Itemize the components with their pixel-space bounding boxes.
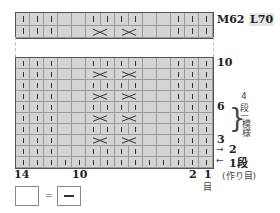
chart-bottom-section: [15, 57, 214, 169]
empty-stitch: [72, 102, 86, 113]
knit-stitch-icon: [44, 13, 58, 26]
knit-stitch-icon: [16, 124, 30, 135]
empty-stitch: [58, 26, 72, 39]
knit-stitch-icon: [30, 113, 44, 124]
empty-stitch: [143, 102, 157, 113]
knit-stitch-icon: [101, 58, 115, 69]
knit-stitch-icon: [129, 146, 143, 157]
legend-equals: =: [45, 190, 53, 200]
knit-stitch-icon: [171, 157, 185, 168]
knit-stitch-icon: [185, 26, 199, 39]
empty-stitch: [72, 113, 86, 124]
col-label-14: 14: [14, 168, 29, 181]
row-label-10: 10: [217, 56, 232, 69]
knit-stitch-icon: [86, 124, 100, 135]
col-label-10: 10: [72, 168, 87, 181]
cable-cross-icon: [115, 91, 143, 102]
knit-stitch-icon: [199, 146, 213, 157]
empty-stitch: [143, 69, 157, 80]
knit-stitch-icon: [86, 146, 100, 157]
cable-cross-icon: [86, 26, 114, 39]
knit-stitch-icon: [30, 157, 44, 168]
cast-on-label: (作り目): [222, 169, 256, 182]
arrow-2: →: [216, 144, 224, 154]
knit-stitch-icon: [16, 102, 30, 113]
knit-stitch-icon: [101, 80, 115, 91]
knit-stitch-icon: [30, 58, 44, 69]
knit-stitch-icon: [115, 146, 129, 157]
knit-stitch-icon: [101, 13, 115, 26]
empty-stitch: [72, 124, 86, 135]
knit-stitch-icon: [30, 26, 44, 39]
knit-stitch-icon: [101, 146, 115, 157]
knit-stitch-icon: [185, 80, 199, 91]
knit-stitch-icon: [185, 69, 199, 80]
cable-cross-icon: [115, 26, 143, 39]
knit-stitch-icon: [115, 80, 129, 91]
chart-top-section: [15, 12, 214, 39]
knit-stitch-icon: [115, 157, 129, 168]
purl-dash-icon: [64, 195, 74, 197]
empty-stitch: [143, 13, 157, 26]
knit-stitch-icon: [16, 91, 30, 102]
empty-stitch: [157, 146, 171, 157]
knit-stitch-icon: [171, 69, 185, 80]
empty-stitch: [143, 113, 157, 124]
empty-stitch: [143, 146, 157, 157]
knit-stitch-icon: [30, 91, 44, 102]
knit-stitch-icon: [44, 69, 58, 80]
knit-stitch-icon: [30, 102, 44, 113]
empty-stitch: [157, 13, 171, 26]
cable-cross-icon: [115, 69, 143, 80]
empty-stitch: [157, 91, 171, 102]
knit-stitch-icon: [115, 58, 129, 69]
knit-stitch-icon: [199, 135, 213, 146]
cable-cross-icon: [86, 135, 114, 146]
knit-stitch-icon: [129, 157, 143, 168]
knit-stitch-icon: [86, 157, 100, 168]
knit-stitch-icon: [185, 146, 199, 157]
size-label-l: L70: [249, 13, 274, 26]
knit-stitch-icon: [199, 91, 213, 102]
cable-cross-icon: [115, 135, 143, 146]
knit-stitch-icon: [115, 102, 129, 113]
knit-stitch-icon: [101, 157, 115, 168]
knit-stitch-icon: [171, 113, 185, 124]
knit-stitch-icon: [44, 157, 58, 168]
knit-stitch-icon: [171, 91, 185, 102]
knit-stitch-icon: [199, 69, 213, 80]
empty-stitch: [72, 69, 86, 80]
knit-stitch-icon: [171, 13, 185, 26]
empty-stitch: [157, 69, 171, 80]
knit-stitch-icon: [185, 91, 199, 102]
cable-cross-icon: [86, 91, 114, 102]
empty-stitch: [72, 13, 86, 26]
empty-stitch: [157, 80, 171, 91]
knit-stitch-icon: [185, 58, 199, 69]
knit-stitch-icon: [129, 80, 143, 91]
empty-stitch: [58, 91, 72, 102]
empty-stitch: [143, 124, 157, 135]
knit-stitch-icon: [199, 124, 213, 135]
empty-stitch: [58, 135, 72, 146]
knit-stitch-icon: [44, 80, 58, 91]
knit-stitch-icon: [16, 157, 30, 168]
knit-stitch-icon: [30, 146, 44, 157]
knit-stitch-icon: [115, 124, 129, 135]
knit-stitch-icon: [101, 102, 115, 113]
empty-stitch: [157, 113, 171, 124]
empty-stitch: [157, 135, 171, 146]
knit-stitch-icon: [199, 13, 213, 26]
size-label-m: M62: [217, 13, 244, 26]
cable-cross-icon: [86, 69, 114, 80]
knit-stitch-icon: [171, 146, 185, 157]
knit-stitch-icon: [86, 58, 100, 69]
empty-stitch: [143, 26, 157, 39]
knit-stitch-icon: [44, 58, 58, 69]
knit-stitch-icon: [16, 113, 30, 124]
cable-cross-icon: [115, 113, 143, 124]
empty-stitch: [72, 26, 86, 39]
knit-stitch-icon: [185, 113, 199, 124]
knit-stitch-icon: [16, 80, 30, 91]
knit-stitch-icon: [16, 26, 30, 39]
